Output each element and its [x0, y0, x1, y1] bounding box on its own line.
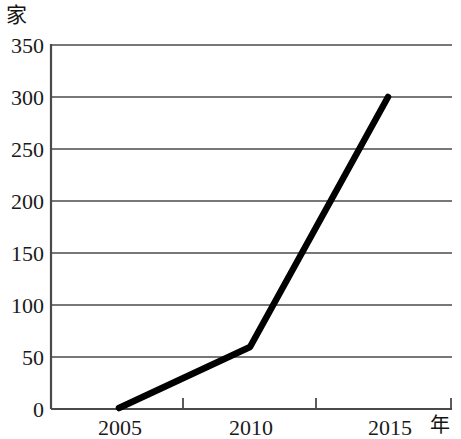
gridlines: [51, 45, 452, 357]
plot-area: [0, 0, 461, 439]
x-axis-ticks: [183, 398, 451, 409]
line-chart: 家 350 300 250 200 150 100 50 0 2005 2010…: [0, 0, 461, 439]
